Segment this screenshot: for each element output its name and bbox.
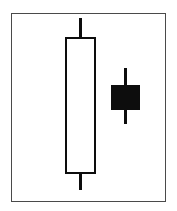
bullish-body xyxy=(65,37,96,174)
bearish-upper-wick xyxy=(124,68,127,85)
candlestick-figure: Bearish Harami Candlestick Pattern Large… xyxy=(0,0,177,211)
bullish-lower-wick xyxy=(79,174,82,190)
bearish-body xyxy=(111,85,140,110)
bearish-lower-wick xyxy=(124,110,127,124)
plot-area xyxy=(0,0,177,211)
bullish-upper-wick xyxy=(79,18,82,37)
